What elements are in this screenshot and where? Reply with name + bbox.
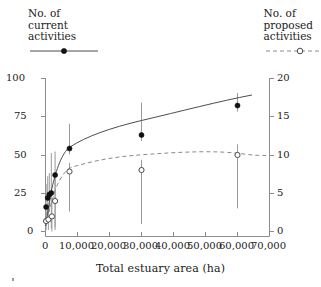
right-ticklabel-10: 10: [277, 149, 290, 160]
left-ticklabel-100: 100: [6, 72, 25, 83]
point-current-6: [139, 133, 144, 138]
right-ticklabel-5: 5: [277, 187, 283, 198]
point-proposed-6: [235, 152, 240, 157]
point-current-7: [235, 103, 240, 108]
x-ticklabel-40000: 40,000: [155, 240, 190, 251]
x-ticklabel-30000: 30,000: [123, 240, 158, 251]
right-axis: [270, 78, 275, 232]
x-ticklabel-10000: 10,000: [59, 240, 94, 251]
left-ticklabel-75: 75: [14, 110, 27, 121]
right-ticklabel-20: 20: [277, 72, 290, 83]
x-axis: [46, 232, 270, 237]
x-ticklabel-60000: 60,000: [219, 240, 254, 251]
fit-curve-current: [46, 95, 252, 226]
right-ticklabel-15: 15: [277, 110, 290, 121]
point-proposed-5: [139, 167, 144, 172]
x-ticklabel-0: 0: [42, 240, 48, 251]
x-ticklabel-50000: 50,000: [187, 240, 222, 251]
error-bars-proposed: [46, 144, 237, 231]
point-proposed-4: [67, 169, 72, 174]
left-ticklabel-50: 50: [14, 149, 27, 160]
x-ticklabel-20000: 20,000: [91, 240, 126, 251]
point-proposed-3: [53, 198, 58, 203]
point-current-4: [53, 173, 58, 178]
point-current-3: [49, 191, 54, 196]
x-ticklabel-70000: 70,000: [251, 240, 286, 251]
chart-figure: No. of current activities No. of propose…: [0, 0, 321, 287]
page-speck: [12, 278, 14, 281]
x-axis-title: Total estuary area (ha): [0, 262, 321, 275]
point-proposed-2: [49, 214, 54, 219]
left-ticklabel-25: 25: [14, 187, 27, 198]
left-ticklabel-0: 0: [27, 225, 33, 236]
point-current-5: [67, 146, 72, 151]
right-ticklabel-0: 0: [277, 225, 283, 236]
fit-curve-proposed: [46, 152, 268, 220]
point-current-0: [44, 205, 49, 210]
